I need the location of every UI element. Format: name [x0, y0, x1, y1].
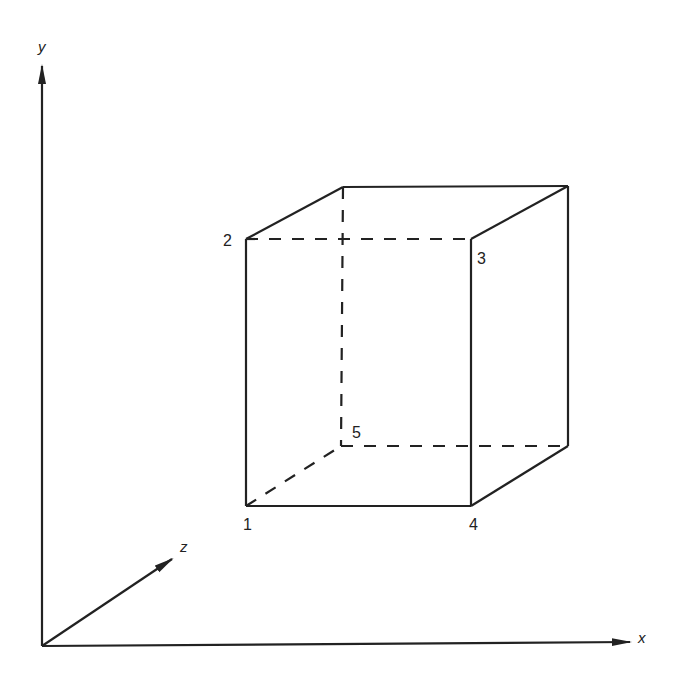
cube-visible-edges — [246, 186, 568, 506]
edge-1-5-dashed — [246, 446, 341, 506]
vertex-label-2: 2 — [223, 232, 232, 249]
edge-top-5-dashed — [341, 187, 343, 446]
vertex-label-3: 3 — [477, 250, 486, 267]
x-axis-label: x — [637, 629, 646, 646]
coordinate-axes — [42, 66, 630, 646]
z-axis-label: z — [179, 538, 188, 555]
edge-2-top — [246, 187, 343, 239]
edge-4-back — [471, 446, 568, 506]
edge-top-back — [343, 186, 568, 187]
cube-diagram: y z x 2 3 5 1 4 — [0, 0, 680, 689]
x-axis — [42, 642, 630, 646]
edge-3-top — [471, 186, 568, 239]
z-axis — [42, 559, 172, 646]
vertex-label-4: 4 — [469, 516, 478, 533]
y-axis-label: y — [37, 38, 47, 55]
cube-hidden-edges — [246, 187, 568, 506]
vertex-label-5: 5 — [352, 424, 361, 441]
vertex-label-1: 1 — [243, 516, 252, 533]
